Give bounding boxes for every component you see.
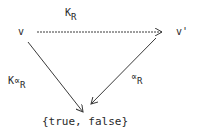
- node-v-label: v: [18, 26, 24, 37]
- arrow-v-to-bool: [28, 42, 83, 112]
- node-v-prime-label: v': [176, 26, 188, 37]
- edge-label-top-sub: R: [71, 12, 76, 22]
- node-true-false: {true, false}: [42, 116, 128, 127]
- node-v: v: [18, 27, 24, 37]
- edge-label-left: K∝R: [8, 76, 25, 86]
- node-v-prime: v': [176, 27, 188, 37]
- edge-label-left-main: K∝: [8, 75, 20, 86]
- edge-label-right: ∝R: [131, 72, 142, 82]
- node-true-false-label: {true, false}: [42, 115, 128, 128]
- arrow-v-prime-to-bool: [91, 38, 156, 104]
- edge-label-right-sub: R: [137, 76, 142, 86]
- edge-label-top: KR: [65, 8, 76, 18]
- edge-label-left-sub: R: [20, 80, 25, 90]
